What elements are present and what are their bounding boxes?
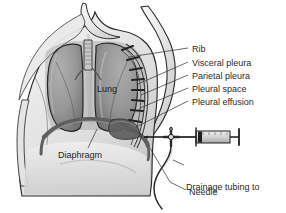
label-parietal-pleura: Parietal pleura — [192, 71, 250, 81]
label-needle: Needle — [189, 187, 218, 197]
leader-needle — [170, 182, 186, 190]
diaphragm-right-crus — [148, 146, 149, 160]
illustration-canvas: Lung Diaphragm Rib Visceral pleura Parie… — [0, 0, 286, 213]
label-lung: Lung — [97, 84, 117, 94]
three-way-stopcock — [164, 128, 179, 147]
label-pleural-space: Pleural space — [192, 84, 247, 94]
label-diaphragm: Diaphragm — [58, 150, 102, 160]
label-pleural-effusion: Pleural effusion — [192, 97, 254, 107]
label-rib: Rib — [192, 44, 206, 54]
leader-drainage — [173, 160, 184, 165]
label-visceral-pleura: Visceral pleura — [192, 58, 251, 68]
leader-needle-2 — [150, 148, 170, 182]
syringe-plunger-stopper — [198, 132, 202, 143]
drainage-tubing — [154, 146, 171, 209]
trachea — [84, 40, 92, 70]
